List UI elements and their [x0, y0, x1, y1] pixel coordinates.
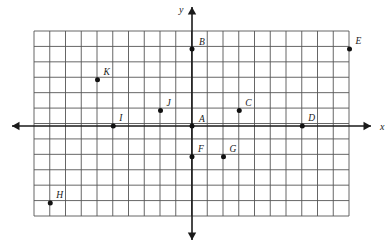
- point-label-k: K: [103, 67, 111, 77]
- x-axis-label: x: [379, 121, 385, 132]
- point-label-i: I: [118, 113, 123, 123]
- data-point-c: [237, 108, 242, 113]
- data-point-e: [347, 46, 352, 51]
- data-point-g: [221, 154, 226, 159]
- data-point-h: [48, 201, 53, 206]
- x-axis-arrow-left: [12, 122, 20, 130]
- axis-labels: xy: [178, 4, 385, 132]
- point-label-j: J: [167, 98, 172, 108]
- data-point-i: [111, 124, 116, 129]
- data-point-b: [190, 46, 195, 51]
- point-label-d: D: [307, 113, 315, 123]
- coordinate-plane-figure: xy ABCDEFGHIJK: [0, 0, 388, 250]
- data-point-j: [158, 108, 163, 113]
- data-point-d: [300, 124, 305, 129]
- y-axis-label: y: [178, 4, 184, 15]
- point-label-g: G: [230, 144, 237, 154]
- data-point-a: [190, 124, 195, 129]
- y-axis-arrow-up: [188, 7, 196, 15]
- point-label-e: E: [355, 36, 362, 46]
- point-label-f: F: [197, 144, 204, 154]
- point-label-a: A: [198, 114, 205, 124]
- x-axis-arrow-right: [364, 122, 372, 130]
- plotted-points: ABCDEFGHIJK: [48, 36, 362, 206]
- point-label-b: B: [199, 37, 205, 47]
- data-point-f: [190, 154, 195, 159]
- coordinate-plane-svg: xy ABCDEFGHIJK: [0, 0, 388, 250]
- data-point-k: [95, 77, 100, 82]
- y-axis-arrow-down: [188, 233, 196, 241]
- point-label-h: H: [55, 190, 64, 200]
- point-label-c: C: [245, 98, 252, 108]
